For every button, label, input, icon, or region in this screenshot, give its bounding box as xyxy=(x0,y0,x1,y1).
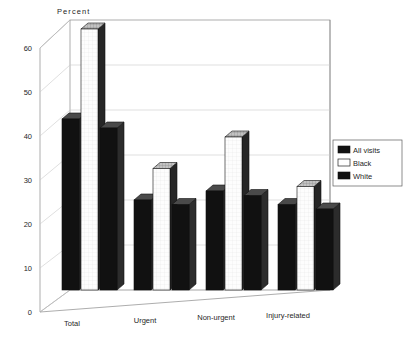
legend-item-white[interactable]: White xyxy=(338,172,372,181)
legend-label-black: Black xyxy=(353,159,372,168)
bar-injury-related-white xyxy=(316,203,340,290)
bars-layer xyxy=(62,23,340,290)
y-axis-ticks: 0 10 20 30 40 50 60 xyxy=(24,44,32,317)
y-tick-10: 10 xyxy=(24,264,32,273)
legend-item-black[interactable]: Black xyxy=(338,159,372,168)
y-tick-40: 40 xyxy=(24,132,32,141)
legend: All visits Black White xyxy=(333,140,402,186)
bar-chart: Percent 0 10 20 30 40 50 60 Total Urgent… xyxy=(0,0,407,339)
bar-urgent-white xyxy=(172,199,196,291)
y-tick-20: 20 xyxy=(24,220,32,229)
legend-item-all-visits[interactable]: All visits xyxy=(338,146,380,155)
legend-swatch-all-visits xyxy=(338,146,350,153)
category-label-total: Total xyxy=(64,319,80,328)
legend-label-all-visits: All visits xyxy=(353,146,380,155)
category-label-non-urgent: Non-urgent xyxy=(197,313,235,322)
y-tick-60: 60 xyxy=(24,44,32,53)
category-label-injury-related: Injury-related xyxy=(266,311,310,320)
legend-swatch-white xyxy=(338,172,350,179)
y-tick-0: 0 xyxy=(28,308,32,317)
y-tick-30: 30 xyxy=(24,176,32,185)
legend-label-white: White xyxy=(353,172,372,181)
category-label-urgent: Urgent xyxy=(134,316,157,325)
y-tick-50: 50 xyxy=(24,88,32,97)
bar-total-white xyxy=(100,122,124,290)
chart-svg: Percent 0 10 20 30 40 50 60 Total Urgent… xyxy=(0,0,407,339)
legend-swatch-black xyxy=(338,159,350,166)
y-axis-title: Percent xyxy=(57,7,91,16)
x-axis-categories: Total Urgent Non-urgent Injury-related xyxy=(64,311,310,328)
bar-non-urgent-white xyxy=(244,190,268,291)
